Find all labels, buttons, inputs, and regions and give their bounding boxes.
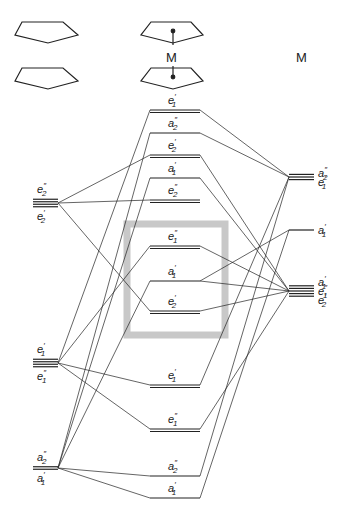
center-label-C2: a″2 [168, 115, 178, 132]
left-label-bot-L_e2: e′2 [37, 208, 46, 225]
center-level-C5 [150, 200, 200, 203]
correlation-line [200, 281, 289, 291]
left-level-L_e1 [33, 359, 58, 367]
correlation-line [58, 178, 150, 468]
left-level-L_a [33, 467, 58, 470]
center-level-C9 [150, 385, 200, 388]
right-label-R_s-0: a′1 [318, 222, 326, 239]
left-label-top-L_e1: e′1 [37, 341, 45, 358]
center-label-C9: e′1 [168, 367, 176, 384]
center-label-C8: e′2 [168, 293, 177, 310]
center-label-C1: e′1 [168, 92, 176, 109]
correlation-line [58, 203, 150, 311]
correlation-line [58, 468, 150, 476]
correlation-line [200, 178, 289, 291]
center-level-C1 [150, 110, 200, 113]
right-label-R_p-1: e′1 [318, 174, 326, 191]
center-level-C6 [150, 246, 200, 249]
right-level-R_p [289, 174, 314, 179]
correlation-line [58, 281, 150, 468]
correlation-line [200, 110, 289, 177]
left-label-bot-L_e1: e″1 [37, 368, 47, 385]
left-label-top-L_a: a″2 [37, 449, 47, 466]
correlation-line [200, 133, 289, 177]
center-label-C10: e″1 [168, 411, 178, 428]
right-label-R_d-2: e′2 [318, 292, 327, 309]
center-level-C3 [150, 155, 200, 158]
center-label-C3: e′2 [168, 137, 177, 154]
correlation-line [200, 177, 289, 385]
mo-diagram: M M e′1a″2e′2a′1e″2e″1a′1e′2e′1e″1a″2a′1… [0, 0, 349, 516]
correlation-line [58, 110, 150, 363]
center-label-C7: a′1 [168, 263, 176, 280]
center-label-C4: a′1 [168, 160, 176, 177]
correlation-line [200, 291, 289, 429]
left-level-L_e2 [33, 199, 58, 207]
correlation-line [58, 155, 150, 203]
correlation-line [200, 230, 289, 281]
center-label-C6: e″1 [168, 228, 178, 245]
center-label-C11: a″2 [168, 458, 178, 475]
mo-diagram-canvas: M M e′1a″2e′2a′1e″2e″1a′1e′2e′1e″1a″2a′1… [0, 0, 349, 516]
two-cyclopentadienyl-rings-icon [15, 22, 78, 89]
correlation-line [58, 363, 150, 429]
center-level-C8 [150, 311, 200, 314]
correlation-line [58, 246, 150, 363]
correlation-line [200, 291, 289, 311]
correlation-line [200, 246, 289, 291]
left-label-top-L_e2: e″2 [37, 181, 47, 198]
correlation-line [58, 200, 150, 203]
correlation-line [58, 133, 150, 468]
center-level-C10 [150, 429, 200, 432]
center-metal-label: M [166, 50, 177, 65]
right-metal-label: M [296, 50, 307, 65]
center-label-C12: a′1 [168, 480, 176, 497]
symmetry-labels: e′1a″2e′2a′1e″2e″1a′1e′2e′1e″1a″2a′1e″2e… [37, 92, 328, 497]
center-label-C5: e″2 [168, 182, 178, 199]
right-level-R_d [289, 286, 314, 296]
correlation-line [58, 468, 150, 498]
left-label-bot-L_a: a′1 [37, 470, 45, 487]
